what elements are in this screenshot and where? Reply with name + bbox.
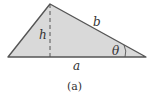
- angle-label: θ: [112, 44, 120, 58]
- base-label: a: [73, 59, 80, 73]
- triangle-diagram: h b θ a (a): [0, 0, 154, 103]
- side-b-label: b: [93, 15, 101, 29]
- figure-caption: (a): [67, 80, 82, 93]
- height-label: h: [39, 28, 47, 42]
